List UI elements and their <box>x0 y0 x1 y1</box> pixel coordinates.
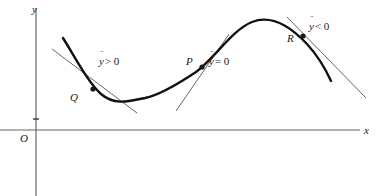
point-marker-r <box>300 33 305 38</box>
annotation-p: ¨y = 0 <box>209 56 229 67</box>
annotation-p-variable: ¨y <box>209 56 214 67</box>
x-axis-label: x <box>364 125 369 136</box>
figure-canvas: y x O Q ¨y > 0 P ¨y = 0 R ¨y < 0 <box>0 0 378 196</box>
tangent-line-q <box>52 49 137 113</box>
annotation-r-variable: ¨y <box>309 21 314 32</box>
double-dot-accent-icon: ¨ <box>210 49 213 58</box>
annotation-q-operator: > 0 <box>104 55 119 67</box>
annotation-r-operator: < 0 <box>314 20 329 32</box>
point-label-q: Q <box>70 92 78 103</box>
point-label-r: R <box>287 33 294 44</box>
tangent-line-p <box>176 34 229 111</box>
double-dot-accent-icon: ¨ <box>310 14 313 23</box>
double-dot-accent-icon: ¨ <box>100 49 103 58</box>
origin-label: O <box>20 133 28 144</box>
point-marker-q <box>90 86 95 91</box>
annotation-r: ¨y < 0 <box>309 21 329 32</box>
annotation-q-variable: ¨y <box>99 56 104 67</box>
annotation-p-operator: = 0 <box>214 55 229 67</box>
point-label-p: P <box>186 56 193 67</box>
annotation-q: ¨y > 0 <box>99 56 119 67</box>
point-markers-group <box>90 33 305 91</box>
point-marker-p <box>199 64 204 69</box>
y-axis-label: y <box>32 4 37 15</box>
